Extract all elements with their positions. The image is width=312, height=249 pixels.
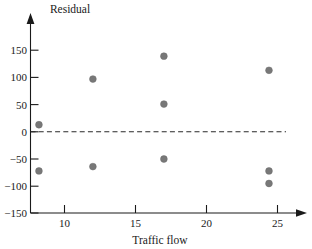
data-point	[266, 67, 273, 74]
y-tick-label-0: 0	[22, 126, 28, 138]
data-point	[36, 121, 43, 128]
y-tick-label-neg100: −100	[4, 180, 27, 192]
x-axis-arrowhead	[296, 209, 307, 217]
y-tick-label-150: 150	[11, 44, 28, 56]
data-point	[161, 156, 168, 163]
data-points-group	[36, 53, 273, 187]
y-tick-label-50: 50	[16, 99, 28, 111]
data-point	[161, 101, 168, 108]
x-tick-label-15: 15	[130, 217, 142, 229]
y-tick-label-neg50: −50	[10, 153, 28, 165]
data-point	[266, 180, 273, 187]
data-point	[90, 163, 97, 170]
x-tick-label-20: 20	[201, 217, 213, 229]
data-point	[90, 76, 97, 83]
data-point	[161, 53, 168, 60]
x-tick-label-10: 10	[59, 217, 71, 229]
data-point	[36, 168, 43, 175]
y-tick-label-neg150: −150	[4, 207, 27, 219]
x-tick-label-25: 25	[272, 217, 284, 229]
chart-canvas: 150 100 50 0 −50 −100 −150 10 15 20 25 R…	[0, 0, 312, 249]
data-point	[266, 168, 273, 175]
y-axis-title: Residual	[50, 3, 90, 15]
x-tick-marks	[65, 205, 278, 213]
y-tick-label-100: 100	[11, 71, 28, 83]
residual-plot-figure: 150 100 50 0 −50 −100 −150 10 15 20 25 R…	[0, 0, 312, 249]
y-axis-arrowhead	[27, 13, 35, 24]
x-axis-title: Traffic flow	[132, 234, 188, 246]
